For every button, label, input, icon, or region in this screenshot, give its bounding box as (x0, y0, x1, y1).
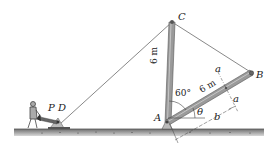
winch-D (36, 114, 70, 129)
worker-figure (28, 102, 41, 129)
dimension-AC: 6 m (150, 47, 159, 64)
label-A: A (154, 113, 161, 123)
cable-DC (60, 22, 172, 124)
label-B: B (256, 70, 263, 80)
label-D: D (58, 103, 66, 113)
statics-diagram (0, 0, 274, 150)
label-P: P (48, 103, 55, 113)
cables (60, 22, 252, 124)
post-AC (165, 20, 175, 123)
ground (14, 129, 264, 136)
cable-CB (172, 22, 252, 73)
section-a-bottom: a (233, 94, 239, 104)
angle-60: 60° (175, 89, 191, 98)
label-C: C (178, 12, 186, 22)
dimension-b: b (214, 112, 220, 122)
section-a-top: a (215, 64, 221, 74)
angle-theta: θ (197, 107, 203, 117)
